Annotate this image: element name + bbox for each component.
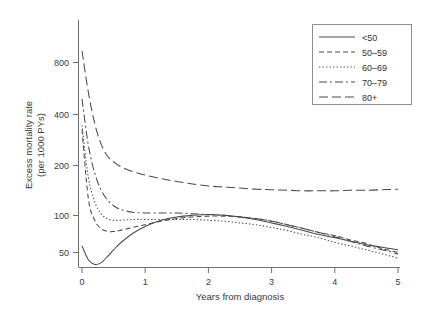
legend: <50 50–59 60–69 70–79 80+ (313, 25, 412, 105)
series-curve-60-69 (82, 125, 398, 258)
x-tick-2: 2 (206, 268, 211, 288)
legend-item-label: <50 (362, 33, 377, 43)
x-tick-3: 3 (269, 268, 274, 288)
series-curve-70-79 (82, 99, 398, 254)
excess-mortality-line-chart: 800 400 200 100 50 0 (0, 0, 423, 316)
y-axis-title-line1: Excess mortality rate (23, 101, 34, 189)
x-tick-4: 4 (332, 268, 337, 288)
y-tick-400: 400 (54, 110, 79, 120)
y-tick-100: 100 (54, 211, 79, 221)
x-axis-ticks: 0 1 2 3 4 5 (79, 268, 400, 288)
legend-item-label: 60–69 (362, 63, 387, 73)
x-tick-label: 2 (206, 277, 211, 287)
x-axis-title: Years from diagnosis (196, 291, 285, 302)
y-axis-ticks: 800 400 200 100 50 (54, 58, 79, 258)
y-tick-label: 800 (54, 58, 69, 68)
y-axis-title-line2: (per 1000 PYs) (35, 113, 46, 177)
legend-item-label: 80+ (362, 93, 377, 103)
y-tick-label: 50 (59, 248, 69, 258)
x-tick-label: 3 (269, 277, 274, 287)
x-tick-label: 0 (79, 277, 84, 287)
x-tick-0: 0 (79, 268, 84, 288)
x-tick-5: 5 (395, 268, 400, 288)
x-tick-label: 4 (332, 277, 337, 287)
y-tick-50: 50 (59, 248, 79, 258)
y-tick-label: 100 (54, 211, 69, 221)
y-tick-800: 800 (54, 58, 79, 68)
series-curve-50-59 (82, 130, 398, 253)
x-tick-label: 1 (143, 277, 148, 287)
chart-figure: 800 400 200 100 50 0 (0, 0, 423, 316)
y-tick-label: 200 (54, 161, 69, 171)
legend-item-label: 50–59 (362, 48, 387, 58)
y-tick-200: 200 (54, 161, 79, 171)
y-tick-label: 400 (54, 110, 69, 120)
legend-item-label: 70–79 (362, 78, 387, 88)
x-tick-label: 5 (395, 277, 400, 287)
x-tick-1: 1 (143, 268, 148, 288)
